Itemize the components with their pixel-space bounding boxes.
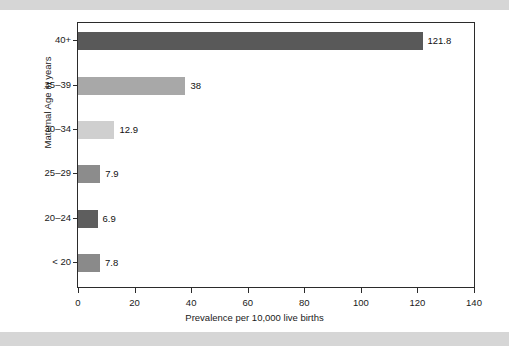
bar-row: 121.8 bbox=[78, 32, 451, 50]
bar-35-39 bbox=[78, 77, 185, 95]
y-axis-tick bbox=[73, 262, 77, 263]
bar-value-label: 6.9 bbox=[103, 214, 116, 224]
x-axis-tick bbox=[304, 288, 305, 293]
bar-value-label: 121.8 bbox=[428, 36, 452, 46]
x-axis-tick-label: 20 bbox=[115, 297, 155, 308]
bar-row: 7.8 bbox=[78, 254, 118, 272]
y-axis-tick bbox=[73, 218, 77, 219]
bar-row: 7.9 bbox=[78, 165, 119, 183]
y-axis-tick bbox=[73, 129, 77, 130]
y-axis-label: 30–34 bbox=[5, 123, 71, 134]
y-axis-title: Maternal Age in years bbox=[42, 23, 53, 183]
bar-row: 38 bbox=[78, 77, 201, 95]
bar-40+ bbox=[78, 32, 423, 50]
x-axis-tick-label: 100 bbox=[341, 297, 381, 308]
y-axis-tick bbox=[73, 40, 77, 41]
top-decorative-band bbox=[0, 0, 509, 10]
bar-20-24 bbox=[78, 210, 98, 228]
x-axis-tick bbox=[417, 288, 418, 293]
x-axis-tick-label: 40 bbox=[171, 297, 211, 308]
y-axis-tick bbox=[73, 173, 77, 174]
plot-area: 121.83812.97.96.97.8 bbox=[77, 22, 475, 288]
y-axis-tick bbox=[73, 85, 77, 86]
x-axis-tick-label: 80 bbox=[284, 297, 324, 308]
bar-row: 12.9 bbox=[78, 121, 138, 139]
bar--20 bbox=[78, 254, 100, 272]
x-axis-tick-label: 140 bbox=[454, 297, 494, 308]
bar-row: 6.9 bbox=[78, 210, 116, 228]
y-axis-label: 40+ bbox=[5, 34, 71, 45]
bar-25-29 bbox=[78, 165, 100, 183]
x-axis-tick bbox=[361, 288, 362, 293]
x-axis-title: Prevalence per 10,000 live births bbox=[0, 312, 509, 323]
bar-value-label: 7.9 bbox=[105, 169, 118, 179]
y-axis-label: 35–39 bbox=[5, 79, 71, 90]
x-axis-tick bbox=[248, 288, 249, 293]
y-axis-label: 25–29 bbox=[5, 167, 71, 178]
x-axis-tick bbox=[135, 288, 136, 293]
x-axis-tick-label: 120 bbox=[397, 297, 437, 308]
bar-value-label: 7.8 bbox=[105, 258, 118, 268]
y-axis-label: 20–24 bbox=[5, 212, 71, 223]
bottom-decorative-band bbox=[0, 332, 509, 346]
x-axis-tick-label: 60 bbox=[228, 297, 268, 308]
y-axis-label: < 20 bbox=[5, 256, 71, 267]
bars-layer: 121.83812.97.96.97.8 bbox=[78, 23, 474, 287]
bar-value-label: 12.9 bbox=[119, 125, 138, 135]
bar-value-label: 38 bbox=[190, 81, 201, 91]
x-axis-tick bbox=[191, 288, 192, 293]
chart-figure: Maternal Age in years 121.83812.97.96.97… bbox=[0, 0, 509, 346]
x-axis-tick bbox=[474, 288, 475, 293]
x-axis-tick bbox=[78, 288, 79, 293]
bar-30-34 bbox=[78, 121, 114, 139]
x-axis-tick-label: 0 bbox=[58, 297, 98, 308]
